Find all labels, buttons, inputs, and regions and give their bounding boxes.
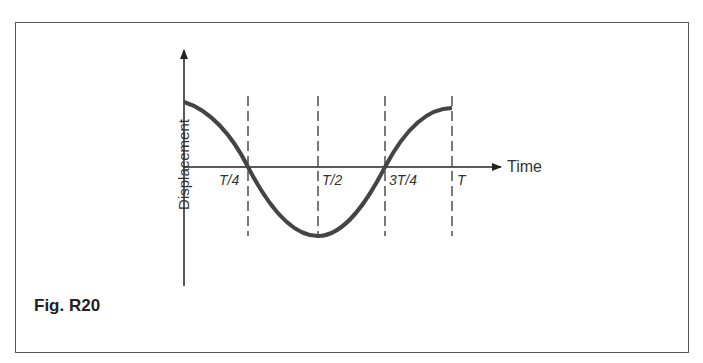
x-axis-label: Time [507,158,542,176]
tick-label-t: T [457,172,466,188]
tick-text: 3T/4 [389,172,417,188]
tick-label-t2: T/2 [322,172,342,188]
tick-text: T/2 [322,172,342,188]
y-axis-label: Displacement [175,90,192,240]
displacement-curve [184,102,452,236]
tick-label-t4: T/4 [219,172,239,188]
tick-label-3t4: 3T/4 [389,172,417,188]
displacement-time-graph [0,0,703,363]
tick-text: T/4 [219,172,239,188]
figure-caption: Fig. R20 [34,296,100,316]
tick-text: T [457,172,466,188]
